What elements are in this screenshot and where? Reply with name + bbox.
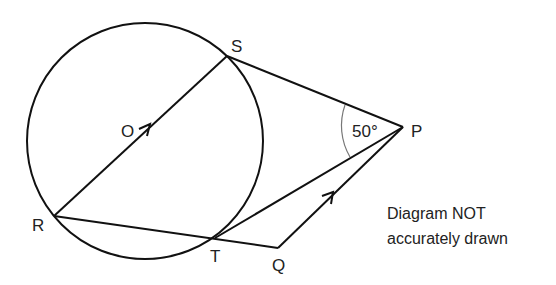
label-r: R — [32, 216, 44, 235]
label-t: T — [210, 247, 220, 266]
label-p: P — [411, 122, 422, 141]
label-o: O — [121, 122, 134, 141]
note-line-2: accurately drawn — [387, 230, 508, 247]
line-tp — [215, 127, 403, 238]
diagram-svg: 50° S P R T Q O Diagram NOT accurately d… — [0, 0, 556, 285]
tangent-sp — [227, 56, 403, 127]
parallel-arrow-rs-icon — [139, 124, 150, 136]
line-qp — [278, 127, 403, 248]
diameter-rs — [54, 56, 227, 216]
note-line-1: Diagram NOT — [387, 205, 486, 222]
geometry-diagram: 50° S P R T Q O Diagram NOT accurately d… — [0, 0, 556, 285]
angle-label: 50° — [352, 122, 378, 141]
circle-o — [27, 23, 263, 259]
parallel-arrow-qp-icon — [322, 192, 333, 204]
angle-arc-p — [341, 105, 350, 157]
label-q: Q — [272, 256, 285, 275]
label-s: S — [231, 37, 242, 56]
